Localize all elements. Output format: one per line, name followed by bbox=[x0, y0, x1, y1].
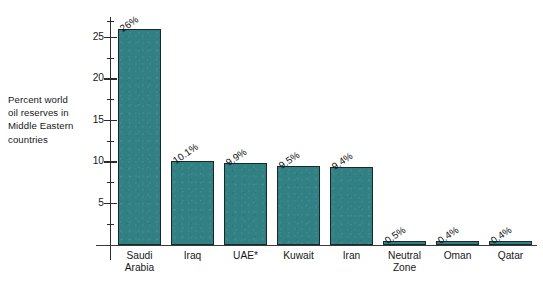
bar bbox=[330, 167, 373, 245]
bar bbox=[171, 161, 214, 245]
y-tick-minor bbox=[107, 99, 114, 100]
y-tick-label-text: 25 bbox=[93, 31, 104, 42]
y-tick-minor bbox=[107, 224, 114, 225]
y-tick-major bbox=[104, 203, 117, 204]
y-tick-minor bbox=[107, 182, 114, 183]
y-tick-minor bbox=[107, 141, 114, 142]
bar bbox=[277, 166, 320, 245]
y-tick-label-text: 5 bbox=[98, 197, 104, 208]
y-tick-label-text: 20 bbox=[93, 72, 104, 83]
plot-area: 510152025 26%10.1%9.9%9.5%9.4%0.5%0.4%0.… bbox=[0, 0, 543, 292]
y-tick-label-text: 10 bbox=[93, 155, 104, 166]
y-tick-major bbox=[104, 78, 117, 79]
y-tick-major bbox=[104, 37, 117, 38]
y-tick-label-text: 15 bbox=[93, 114, 104, 125]
category-label: Qatar bbox=[478, 250, 543, 262]
y-tick-major bbox=[104, 161, 117, 162]
y-tick-minor bbox=[107, 21, 114, 22]
y-tick-major bbox=[104, 120, 117, 121]
x-axis-line bbox=[96, 245, 537, 246]
bar bbox=[118, 29, 161, 245]
y-tick-minor bbox=[107, 58, 114, 59]
bar bbox=[224, 163, 267, 245]
bar-chart: Percent world oil reserves in Middle Eas… bbox=[0, 0, 543, 292]
